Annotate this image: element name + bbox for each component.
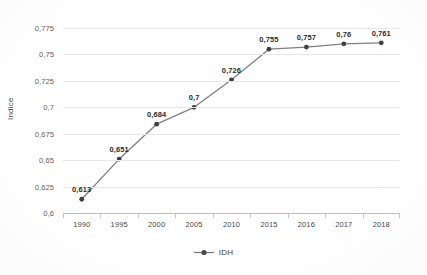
- x-axis-tick-label: 2005: [186, 220, 203, 229]
- data-point-label: 0,7: [189, 93, 200, 102]
- x-axis-tick-label: 2010: [223, 220, 240, 229]
- y-axis-tick-label: 0,7: [43, 103, 54, 112]
- x-axis-tick-mark: [399, 213, 400, 218]
- x-axis-tick-label: 2017: [335, 220, 352, 229]
- data-point-marker: [79, 197, 84, 202]
- data-point-marker: [267, 47, 272, 52]
- data-point-marker: [154, 122, 159, 127]
- gridline: [63, 187, 400, 188]
- gridline: [63, 160, 400, 161]
- x-axis-tick-mark: [213, 213, 214, 218]
- x-axis-tick-label: 2000: [148, 220, 165, 229]
- y-axis-tick-label: 0,65: [39, 156, 54, 165]
- gridline: [63, 134, 400, 135]
- y-axis-tick-label: 0,75: [39, 50, 54, 59]
- gridline: [63, 107, 400, 108]
- x-axis-tick-marks: [63, 213, 400, 219]
- x-axis-tick-label: 1990: [73, 220, 90, 229]
- y-axis-tick-label: 0,725: [35, 76, 54, 85]
- y-axis-tick-label: 0,625: [35, 182, 54, 191]
- data-point-label: 0,761: [372, 29, 391, 38]
- data-point-marker: [379, 40, 384, 45]
- plot-area: 0,6130,6510,6840,70,7260,7550,7570,760,7…: [63, 28, 400, 213]
- chart-legend: IDH: [0, 248, 427, 257]
- series-idh: [63, 28, 400, 213]
- x-axis-tick-label: 2016: [298, 220, 315, 229]
- data-point-label: 0,76: [336, 30, 351, 39]
- x-axis-tick-mark: [250, 213, 251, 218]
- x-axis-tick-label: 2015: [260, 220, 277, 229]
- gridline: [63, 28, 400, 29]
- y-axis-tick-label: 0,6: [43, 209, 54, 218]
- data-point-marker: [304, 45, 309, 50]
- line-chart: Indice 0,60,6250,650,6750,70,7250,750,77…: [0, 0, 427, 275]
- data-point-label: 0,684: [147, 110, 166, 119]
- legend-entry-label: IDH: [219, 248, 233, 257]
- data-point-label: 0,757: [297, 33, 316, 42]
- data-point-label: 0,651: [110, 145, 129, 154]
- x-axis-tick-labels: 199019952000200520102015201620172018: [63, 220, 400, 234]
- data-point-label: 0,726: [222, 66, 241, 75]
- x-axis-tick-mark: [325, 213, 326, 218]
- data-point-label: 0,755: [259, 35, 278, 44]
- x-axis-tick-mark: [363, 213, 364, 218]
- x-axis-tick-mark: [100, 213, 101, 218]
- data-point-marker: [341, 41, 346, 46]
- x-axis-tick-mark: [288, 213, 289, 218]
- line-marker-icon: [194, 248, 214, 257]
- y-axis-tick-label: 0,675: [35, 129, 54, 138]
- x-axis-tick-mark: [138, 213, 139, 218]
- y-axis-tick-label: 0,775: [35, 24, 54, 33]
- data-point-label: 0,613: [72, 185, 91, 194]
- gridline: [63, 81, 400, 82]
- gridline: [63, 54, 400, 55]
- y-axis-tick-labels: 0,60,6250,650,6750,70,7250,750,775: [0, 28, 60, 213]
- x-axis-tick-label: 1995: [111, 220, 128, 229]
- x-axis-tick-mark: [175, 213, 176, 218]
- x-axis-tick-mark: [63, 213, 64, 218]
- x-axis-tick-label: 2018: [373, 220, 390, 229]
